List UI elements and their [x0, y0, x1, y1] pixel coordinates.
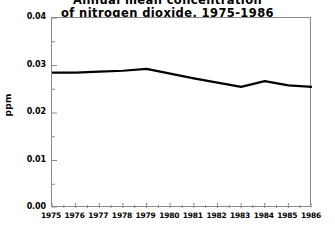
y-tick-label: 0.01: [6, 155, 46, 164]
plot-svg: [52, 18, 312, 208]
data-series-line: [52, 69, 312, 87]
chart-figure: Annual mean concentration of nitrogen di…: [0, 0, 335, 233]
x-tick-label: 1986: [291, 211, 331, 220]
plot-area: [51, 17, 311, 207]
y-tick-label: 0.02: [6, 107, 46, 116]
y-tick-label: 0.00: [6, 202, 46, 211]
y-tick-label: 0.03: [6, 60, 46, 69]
axis-ticks: [52, 18, 312, 208]
y-axis-label: ppm: [3, 85, 13, 125]
y-tick-label: 0.04: [6, 12, 46, 21]
